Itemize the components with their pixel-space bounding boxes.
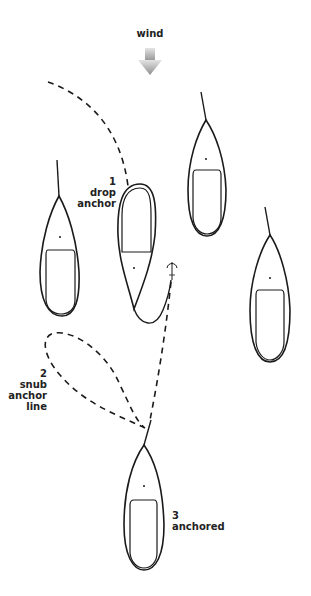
- boat-1-drop-anchor: [118, 184, 171, 323]
- boat-top-right: [188, 92, 226, 236]
- boat-far-right: [250, 207, 290, 362]
- step-3-label: 3 anchored: [172, 510, 232, 532]
- step-2-line-3: line: [0, 401, 47, 412]
- anchoring-diagram: [0, 0, 311, 596]
- anchor-rode-path: [150, 282, 171, 420]
- snub-loop-path: [45, 333, 145, 428]
- anchor-drift-path: [48, 82, 128, 186]
- wind-arrow-icon: [138, 48, 162, 75]
- anchor-icon: [167, 262, 177, 280]
- step-2-number: 2: [0, 368, 47, 379]
- step-1-line-1: drop: [70, 187, 116, 198]
- wind-label: wind: [132, 28, 168, 39]
- step-1-label: 1 drop anchor: [70, 176, 116, 209]
- step-3-line-1: anchored: [172, 521, 232, 532]
- step-2-line-1: snub: [0, 379, 47, 390]
- step-1-line-2: anchor: [70, 198, 116, 209]
- step-3-number: 3: [172, 510, 232, 521]
- step-1-number: 1: [70, 176, 116, 187]
- step-2-line-2: anchor: [0, 390, 47, 401]
- boat-3-anchored: [124, 420, 164, 570]
- step-2-label: 2 snub anchor line: [0, 368, 47, 412]
